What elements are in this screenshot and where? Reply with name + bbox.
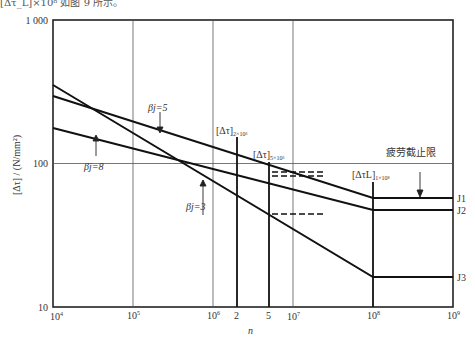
y-axis-title: [Δτ] / (N/mm²): [11, 135, 23, 195]
label-dt-5e6: [Δτ]5×10⁶: [253, 149, 285, 161]
sn-curve-chart: 1 000 100 10 [Δτ] / (N/mm²) 104 105 106 …: [0, 0, 475, 347]
label-beta5: βj=5: [147, 102, 168, 113]
x-tick-1e4: 104: [50, 311, 63, 322]
y-tick-10: 10: [38, 302, 48, 313]
x-tick-1e7: 107: [287, 311, 300, 322]
curve-J3: [53, 85, 453, 277]
curves: [53, 85, 453, 277]
label-beta8: βj=8: [83, 161, 104, 172]
x-axis-title: n: [248, 325, 253, 336]
x-tick-labels: 104 105 106 2 5 107 108 109: [50, 310, 460, 322]
label-beta3: βj=3: [185, 201, 206, 212]
x-tick-5e6: 5: [266, 310, 271, 321]
label-J3: J3: [457, 272, 466, 283]
x-tick-1e5: 105: [127, 310, 140, 321]
y-tick-1000: 1 000: [26, 15, 49, 26]
reference-lines: [237, 137, 373, 307]
x-tick-1e6: 106: [207, 310, 220, 321]
x-tick-1e8: 108: [367, 310, 380, 321]
y-tick-100: 100: [33, 158, 48, 169]
label-fatigue-cutoff: 疲劳截止限: [386, 146, 436, 158]
label-dtL-1e8: [ΔτL]1×10⁸: [352, 169, 390, 181]
label-J1: J1: [457, 193, 466, 204]
label-J2: J2: [457, 205, 466, 216]
x-tick-1e9: 109: [447, 310, 460, 321]
label-dt-2e6: [Δτ]2×10⁶: [216, 125, 248, 137]
x-tick-2e6: 2: [234, 310, 239, 321]
dashed-markers: [272, 172, 325, 214]
